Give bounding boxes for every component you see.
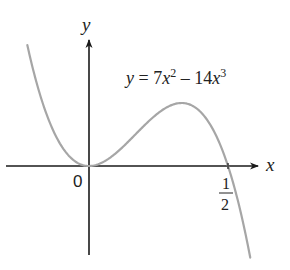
- tick-denominator: 2: [221, 196, 229, 213]
- origin-label: 0: [73, 172, 82, 191]
- y-axis-label: y: [80, 14, 91, 35]
- x-axis-label: x: [265, 154, 275, 175]
- function-graph: y x 0 1 2 y = 7x2 – 14x3: [0, 0, 290, 270]
- equation-label: y = 7x2 – 14x3: [124, 66, 226, 88]
- tick-numerator: 1: [222, 175, 230, 192]
